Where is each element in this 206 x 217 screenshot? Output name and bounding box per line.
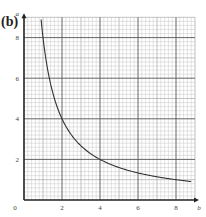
svg-text:4: 4 — [16, 115, 20, 123]
svg-text:a: a — [16, 10, 20, 18]
svg-text:8: 8 — [16, 34, 20, 42]
tick-labels: 024682468ba — [13, 10, 201, 212]
svg-text:2: 2 — [60, 204, 64, 212]
svg-text:6: 6 — [16, 75, 20, 83]
grid-major — [24, 17, 195, 200]
svg-text:0: 0 — [13, 204, 17, 212]
chart-plot: 024682468ba — [0, 0, 206, 217]
grid-minor — [24, 17, 195, 200]
svg-text:4: 4 — [98, 204, 102, 212]
svg-text:b: b — [197, 204, 201, 212]
svg-text:2: 2 — [16, 156, 20, 164]
data-curve — [41, 20, 191, 182]
svg-text:6: 6 — [136, 204, 140, 212]
svg-text:8: 8 — [174, 204, 178, 212]
